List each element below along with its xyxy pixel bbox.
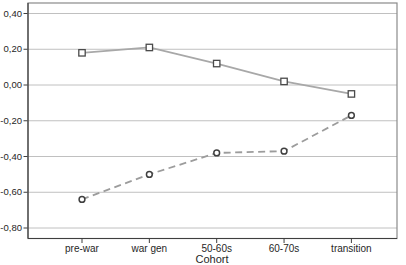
x-tick-label: pre-war (65, 243, 100, 254)
circle-marker (281, 148, 287, 154)
circle-marker (79, 197, 85, 203)
circle-marker (214, 150, 220, 156)
chart-canvas: 0,400,200,00-0,20-0,40-0,60-0,80pre-warw… (0, 0, 406, 265)
dashed-circle-series-line (82, 115, 351, 199)
y-tick-label: -0,60 (0, 186, 22, 197)
x-tick-label: war gen (131, 243, 168, 254)
y-tick-label: -0,20 (0, 115, 22, 126)
line-chart: 0,400,200,00-0,20-0,40-0,60-0,80pre-warw… (0, 0, 406, 265)
square-marker (146, 44, 152, 50)
x-tick-label: transition (331, 243, 372, 254)
y-tick-label: 0,20 (4, 43, 23, 54)
square-marker (348, 91, 354, 97)
y-tick-label: -0,80 (0, 222, 22, 233)
y-tick-label: 0,40 (4, 8, 23, 19)
x-axis-title: Cohort (195, 253, 228, 265)
x-tick-label: 60-70s (269, 243, 300, 254)
square-marker (281, 78, 287, 84)
square-marker (214, 60, 220, 66)
solid-square-series-line (82, 47, 351, 93)
y-tick-label: -0,40 (0, 151, 22, 162)
square-marker (79, 50, 85, 56)
circle-marker (146, 171, 152, 177)
y-tick-label: 0,00 (4, 79, 23, 90)
circle-marker (349, 112, 355, 118)
